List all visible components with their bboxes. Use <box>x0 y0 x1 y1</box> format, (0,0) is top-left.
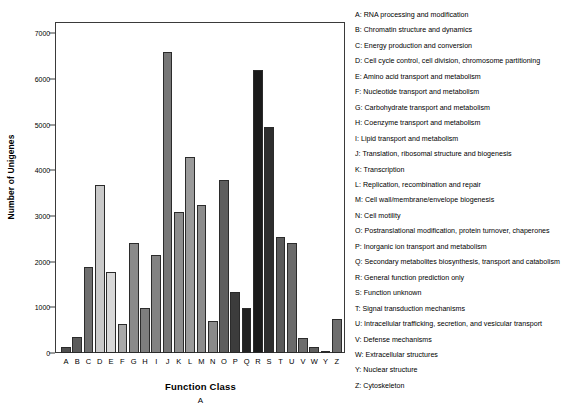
x-axis-tick-label-h: H <box>142 357 147 366</box>
legend-item: R: General function prediction only <box>355 271 560 286</box>
bar-chart: Number of Unigenes 010002000300040005000… <box>0 0 352 412</box>
y-axis-tick-mark <box>49 33 55 34</box>
bar-p <box>230 292 240 353</box>
legend-item: C: Energy production and conversion <box>355 39 560 54</box>
bar-m <box>197 205 207 353</box>
y-axis-tick-label: 7000 <box>35 30 50 37</box>
bar-q <box>242 308 252 353</box>
x-axis-tick-label-y: Y <box>323 357 328 366</box>
bar-c <box>84 267 94 353</box>
bar-j <box>163 52 173 353</box>
bar-i <box>151 255 161 353</box>
legend-item: G: Carbohydrate transport and metabolism <box>355 101 560 116</box>
bar-v <box>298 338 308 353</box>
bar-e <box>106 272 116 353</box>
x-axis-tick-label-d: D <box>97 357 102 366</box>
bar-d <box>95 185 105 353</box>
legend-item: V: Defense mechanisms <box>355 333 560 348</box>
legend-item: U: Intracellular trafficking, secretion,… <box>355 317 560 332</box>
legend-item: T: Signal transduction mechanisms <box>355 302 560 317</box>
bar-u <box>287 243 297 353</box>
legend-item: E: Amino acid transport and metabolism <box>355 70 560 85</box>
figure: Number of Unigenes 010002000300040005000… <box>0 0 563 412</box>
y-axis-tick-label: 1000 <box>35 304 50 311</box>
x-axis-tick-label-a: A <box>63 357 68 366</box>
x-axis-tick-label-s: S <box>267 357 272 366</box>
bar-o <box>219 180 229 353</box>
bar-r <box>253 70 263 353</box>
y-axis-tick-label: 6000 <box>35 76 50 83</box>
bar-a <box>61 347 71 353</box>
legend-item: Z: Cytoskeleton <box>355 379 560 394</box>
bar-h <box>140 308 150 353</box>
x-axis-tick-label-z: Z <box>335 357 340 366</box>
x-axis-tick-label-b: B <box>75 357 80 366</box>
bar-series <box>56 22 345 353</box>
x-axis-tick-label-o: O <box>221 357 227 366</box>
x-axis-tick-label-n: N <box>210 357 215 366</box>
y-axis-tick-labels: 01000200030004000500060007000 <box>18 0 50 412</box>
y-axis-tick-mark <box>49 307 55 308</box>
x-axis-tick-label-u: U <box>289 357 294 366</box>
x-axis-label: Function Class <box>56 381 345 392</box>
legend-item: N: Cell motility <box>355 209 560 224</box>
legend: A: RNA processing and modificationB: Chr… <box>352 0 563 412</box>
panel-caption: A <box>56 396 345 405</box>
legend-item: O: Postranslational modification, protei… <box>355 224 560 239</box>
x-axis-tick-label-g: G <box>131 357 137 366</box>
y-axis-tick-mark <box>49 124 55 125</box>
bar-k <box>174 212 184 353</box>
bar-n <box>208 321 218 353</box>
legend-item: D: Cell cycle control, cell division, ch… <box>355 54 560 69</box>
x-axis-tick-label-v: V <box>300 357 305 366</box>
legend-item: Q: Secondary metabolites biosynthesis, t… <box>355 255 560 270</box>
x-axis-tick-label-m: M <box>198 357 204 366</box>
x-axis-tick-label-q: Q <box>244 357 250 366</box>
x-axis-tick-label-c: C <box>86 357 91 366</box>
x-axis-tick-label-t: T <box>278 357 283 366</box>
x-axis-tick-label-k: K <box>176 357 181 366</box>
x-axis-tick-label-i: I <box>155 357 157 366</box>
x-axis-tick-label-l: L <box>188 357 192 366</box>
y-axis-tick-mark <box>49 216 55 217</box>
x-axis-tick-label-j: J <box>166 357 170 366</box>
legend-item: H: Coenzyme transport and metabolism <box>355 116 560 131</box>
legend-item: B: Chromatin structure and dynamics <box>355 23 560 38</box>
x-axis-tick-labels: ABCDEFGHIJKLMNOPQRSTUVWYZ <box>56 357 345 371</box>
bar-f <box>118 324 128 353</box>
legend-item: W: Extracellular structures <box>355 348 560 363</box>
legend-item: J: Translation, ribosomal structure and … <box>355 147 560 162</box>
x-axis-tick-label-e: E <box>109 357 114 366</box>
legend-item: M: Cell wall/membrane/envelope biogenesi… <box>355 193 560 208</box>
y-axis-tick-label: 4000 <box>35 167 50 174</box>
x-axis-tick-label-f: F <box>120 357 125 366</box>
x-axis-tick-label-r: R <box>255 357 260 366</box>
bar-l <box>185 157 195 353</box>
bar-y <box>321 351 331 353</box>
legend-item: I: Lipid transport and metabolism <box>355 132 560 147</box>
x-axis-tick-label-w: W <box>311 357 318 366</box>
y-axis-tick-mark <box>49 353 55 354</box>
y-axis-tick-label: 2000 <box>35 258 50 265</box>
legend-item: P: Inorganic ion transport and metabolis… <box>355 240 560 255</box>
bar-w <box>309 347 319 353</box>
y-axis-tick-mark <box>49 79 55 80</box>
y-axis-label-text: Number of Unigenes <box>6 134 16 219</box>
bar-z <box>332 319 342 353</box>
y-axis-tick-label: 3000 <box>35 213 50 220</box>
legend-item: L: Replication, recombination and repair <box>355 178 560 193</box>
y-axis-tick-mark <box>49 170 55 171</box>
bar-g <box>129 243 139 353</box>
y-axis-tick-label: 5000 <box>35 121 50 128</box>
legend-item: F: Nucleotide transport and metabolism <box>355 85 560 100</box>
y-axis-tick-mark <box>49 261 55 262</box>
legend-item: A: RNA processing and modification <box>355 8 560 23</box>
x-axis-tick-label-p: P <box>233 357 238 366</box>
legend-item: K: Transcription <box>355 163 560 178</box>
bar-t <box>276 237 286 353</box>
legend-item: Y: Nuclear structure <box>355 363 560 378</box>
bar-s <box>264 127 274 353</box>
bar-b <box>72 337 82 353</box>
legend-item: S: Function unknown <box>355 286 560 301</box>
